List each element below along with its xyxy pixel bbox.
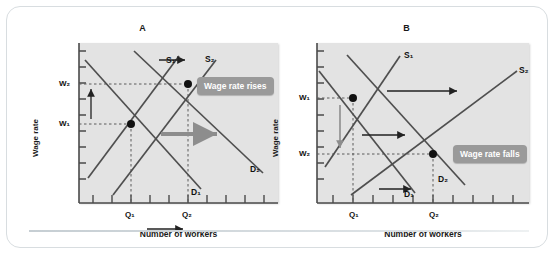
panel-a-label-d2: D₂ xyxy=(250,164,260,174)
panel-b-x-ticks xyxy=(333,195,513,203)
panel-a-label-d1: D₁ xyxy=(191,187,201,197)
panel-b-label-s1: S₁ xyxy=(404,50,413,60)
panel-b: B xyxy=(271,7,542,248)
equilibrium-point xyxy=(349,94,357,102)
panel-b-svg xyxy=(317,43,529,203)
panel-b-curve-s2 xyxy=(351,71,517,195)
panel-a-x-ticks xyxy=(93,195,264,203)
panel-a-curve-d2 xyxy=(134,51,263,173)
panel-a-y-ticks xyxy=(79,51,86,179)
panel-a-x-tick-q2: Q₂ xyxy=(182,210,192,219)
panel-a-y-tick-w1: W₁ xyxy=(59,119,70,128)
panel-b-label-d2: D₂ xyxy=(438,174,448,184)
panel-b-callout: Wage rate falls xyxy=(453,145,527,163)
panel-a-curve-d1 xyxy=(85,60,201,189)
panel-a-q-shift-svg xyxy=(79,175,278,195)
panel-b-x-tick-q1: Q₁ xyxy=(349,210,359,219)
panel-a-x-tick-q1: Q₁ xyxy=(125,210,135,219)
panel-b-y-axis-label: Wage rate xyxy=(271,119,280,157)
figure-divider xyxy=(29,230,529,232)
figure-card: A xyxy=(6,6,548,248)
panel-b-x-tick-q2: Q₂ xyxy=(429,210,439,219)
equilibrium-point xyxy=(127,120,135,128)
panel-b-y-tick-w2: W₂ xyxy=(299,149,310,158)
panel-b-guides xyxy=(317,98,433,203)
equilibrium-point xyxy=(429,150,437,158)
panel-a-y-axis-label: Wage rate xyxy=(31,119,40,157)
panel-b-y-ticks xyxy=(317,51,324,179)
panel-a-curve-s1 xyxy=(88,56,179,178)
panel-b-y-tick-w1: W₁ xyxy=(299,93,310,102)
panel-b-plot-area xyxy=(317,43,529,203)
panel-b-title: B xyxy=(271,23,542,33)
panel-a-title: A xyxy=(7,23,278,33)
panel-a-callout: Wage rate rises xyxy=(197,77,274,95)
panel-a: A xyxy=(7,7,278,248)
panel-b-curve-d2 xyxy=(347,55,465,185)
panel-a-label-s1: S₁ xyxy=(166,55,175,65)
panel-a-label-s2: S₂ xyxy=(205,54,214,64)
equilibrium-point xyxy=(184,80,192,88)
panel-b-label-s2: S₂ xyxy=(519,65,528,75)
panel-b-curve-d1 xyxy=(319,71,415,193)
panel-b-label-d1: D₁ xyxy=(404,189,414,199)
panel-a-y-tick-w2: W₂ xyxy=(59,79,70,88)
